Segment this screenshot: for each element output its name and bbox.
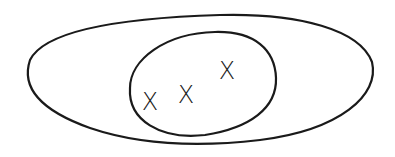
- element-marks: X X X: [142, 57, 235, 116]
- inner-set-outline: [130, 32, 276, 136]
- outer-set-outline: [28, 15, 373, 144]
- element-mark: X: [178, 81, 194, 109]
- element-mark: X: [219, 57, 235, 85]
- nested-set-diagram: X X X: [0, 0, 395, 157]
- element-mark: X: [142, 88, 158, 116]
